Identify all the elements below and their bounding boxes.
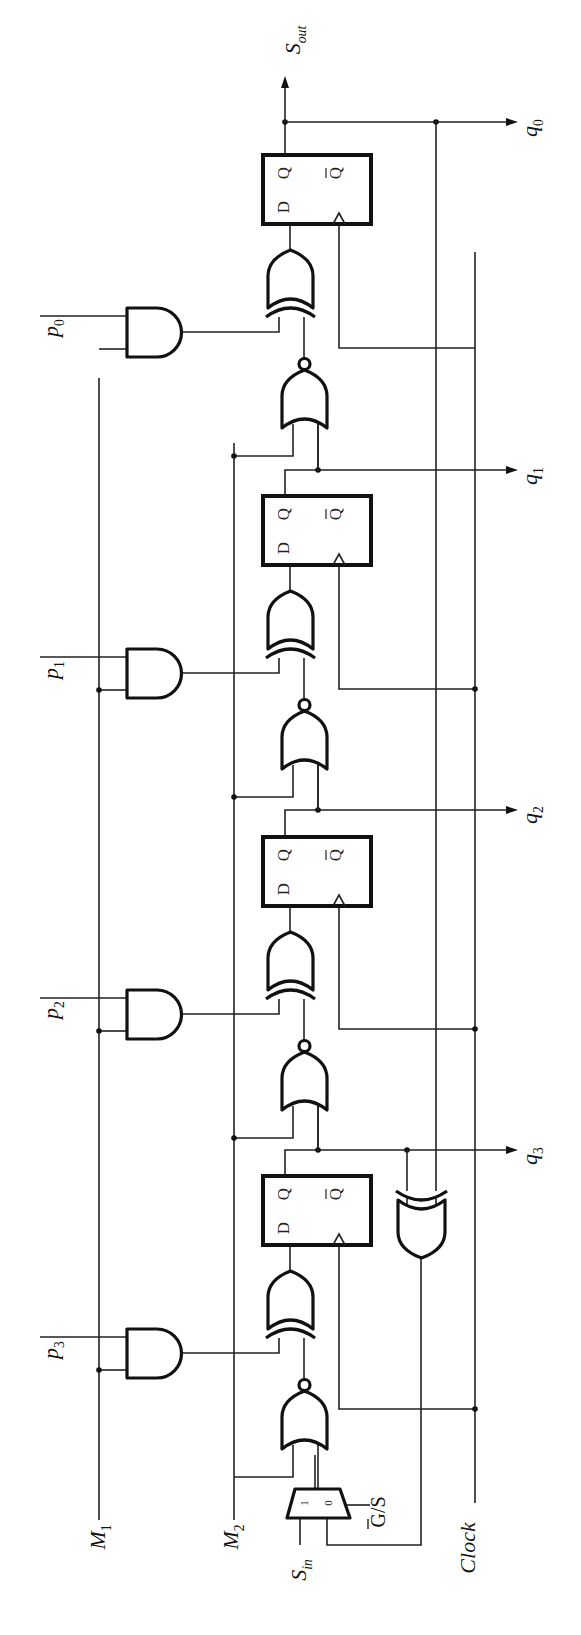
p0-label-main: p bbox=[38, 326, 63, 339]
mux-in0-pin: 0 bbox=[322, 1500, 334, 1506]
nor-gate bbox=[282, 711, 327, 769]
nor-bubble bbox=[299, 1041, 310, 1052]
arrow-right-icon bbox=[506, 466, 518, 474]
clock-label: Clock bbox=[455, 1521, 480, 1574]
q2-label: q2 bbox=[517, 806, 546, 824]
s-in-label-sub: in bbox=[300, 1559, 315, 1570]
p2-label-text: p2 bbox=[38, 1001, 67, 1021]
and-to-xor-wire bbox=[182, 652, 279, 673]
q3-output-wire bbox=[285, 1150, 512, 1176]
xor-gate-0-back-curve bbox=[266, 308, 315, 317]
m2-to-nor-wire bbox=[234, 424, 293, 456]
ff-qbar-pin-text: Q bbox=[326, 508, 345, 520]
clock-to-ff-wire bbox=[339, 906, 475, 1029]
ff-q-pin: Q bbox=[274, 508, 293, 520]
xor-gate-2-back-curve bbox=[266, 990, 315, 999]
p0-label: p0 bbox=[38, 319, 67, 339]
xor-gate-3 bbox=[268, 1271, 313, 1329]
p3-label: p3 bbox=[38, 1341, 67, 1361]
p1-label-text: p1 bbox=[38, 661, 67, 681]
xor-gate-3-back-curve bbox=[266, 1329, 315, 1338]
clock-to-ff-wire bbox=[339, 224, 475, 348]
and-gate bbox=[127, 990, 182, 1039]
ff-qbar-pin: Q bbox=[326, 1188, 345, 1200]
q0-label-main: q bbox=[517, 126, 542, 137]
arrow-right-icon bbox=[506, 806, 518, 814]
nor-bubble bbox=[299, 359, 310, 370]
junction-dot bbox=[231, 794, 237, 800]
q2-label-sub: 2 bbox=[531, 806, 546, 813]
clock-to-ff-wire bbox=[339, 1245, 475, 1409]
q2-output-wire bbox=[285, 810, 512, 837]
p2-label: p2 bbox=[38, 1001, 67, 1021]
and-to-xor-wire bbox=[182, 311, 279, 332]
ff-d-pin-text: D bbox=[274, 201, 293, 213]
s-in-label: Sin bbox=[286, 1559, 315, 1581]
arrow-right-icon bbox=[506, 118, 518, 126]
and-to-xor-wire bbox=[182, 993, 279, 1014]
mux-in1-pin-text: 1 bbox=[298, 1500, 310, 1506]
junction-dot bbox=[472, 1406, 478, 1412]
q0-output-wire bbox=[285, 122, 512, 155]
ff-d-pin: D bbox=[274, 883, 293, 895]
gs-label: G/S bbox=[367, 1496, 389, 1527]
ff-d-pin: D bbox=[274, 542, 293, 554]
ff-qbar-pin-text: Q bbox=[326, 849, 345, 861]
s-in-label-text: Sin bbox=[286, 1559, 315, 1581]
junction-dot bbox=[96, 1367, 102, 1373]
ff-d-pin-text: D bbox=[274, 883, 293, 895]
gates: QQDQQDQQDQQD10 bbox=[127, 155, 447, 1518]
p1-label: p1 bbox=[38, 661, 67, 681]
q1-label-sub: 1 bbox=[531, 467, 546, 474]
xor-gate-2 bbox=[268, 932, 313, 990]
ff-d-pin: D bbox=[274, 1222, 293, 1234]
m1-label-text: M1 bbox=[85, 1524, 114, 1550]
xor-gate-1-back-curve bbox=[266, 649, 315, 658]
mux-in1-pin: 1 bbox=[298, 1500, 310, 1506]
xor-gate-1 bbox=[268, 591, 313, 649]
arrow-up-icon bbox=[281, 76, 289, 88]
q0-label: q0 bbox=[517, 119, 546, 137]
nor-bubble bbox=[299, 700, 310, 711]
nor-gate bbox=[282, 1391, 327, 1449]
junction-dot bbox=[472, 686, 478, 692]
ff-q-pin: Q bbox=[274, 849, 293, 861]
p2-label-sub: 2 bbox=[52, 1001, 67, 1008]
junction-dot bbox=[96, 1028, 102, 1034]
and-gate bbox=[127, 649, 182, 698]
ff-q-pin: Q bbox=[274, 1188, 293, 1200]
q0-label-text: q0 bbox=[517, 119, 546, 137]
q1-label: q1 bbox=[517, 467, 546, 485]
p0-label-sub: 0 bbox=[52, 319, 67, 326]
shift-register-diagram: QQDQQDQQDQQD10 Soutp0p1p2p3q0q1q2q3M1M2S… bbox=[0, 0, 581, 1635]
junction-dot bbox=[472, 1026, 478, 1032]
ff-q-pin: Q bbox=[274, 167, 293, 179]
m2-to-nor-wire bbox=[234, 1445, 293, 1477]
q0-label-sub: 0 bbox=[531, 119, 546, 126]
m2-to-nor-wire bbox=[234, 765, 293, 797]
nor-bubble bbox=[299, 1380, 310, 1391]
q3-label: q3 bbox=[517, 1147, 546, 1165]
q1-label-main: q bbox=[517, 474, 542, 485]
s-out-label-main: S bbox=[280, 43, 305, 54]
p3-label-sub: 3 bbox=[52, 1341, 67, 1348]
m2-label-text: M2 bbox=[218, 1524, 247, 1550]
junction-dot bbox=[231, 453, 237, 459]
clock-to-ff-wire bbox=[339, 565, 475, 689]
p0-label-text: p0 bbox=[38, 319, 67, 339]
ff-qbar-pin: Q bbox=[326, 849, 345, 861]
q1-output-wire bbox=[285, 470, 512, 496]
mux-2to1 bbox=[287, 1489, 350, 1518]
arrow-right-icon bbox=[506, 1146, 518, 1154]
and-to-xor-wire bbox=[182, 1332, 279, 1353]
p2-label-main: p bbox=[38, 1008, 63, 1021]
m2-to-nor-wire bbox=[234, 1106, 293, 1138]
feedback-xor-gate bbox=[398, 1200, 445, 1258]
ff-d-pin-text: D bbox=[274, 1222, 293, 1234]
feedback-xor-back-curve bbox=[396, 1191, 447, 1200]
s-in-label-main: S bbox=[286, 1570, 311, 1581]
q3-label-sub: 3 bbox=[531, 1147, 546, 1154]
m1-label: M1 bbox=[85, 1524, 114, 1550]
ff-q-pin-text: Q bbox=[274, 508, 293, 520]
junction-dot bbox=[96, 687, 102, 693]
